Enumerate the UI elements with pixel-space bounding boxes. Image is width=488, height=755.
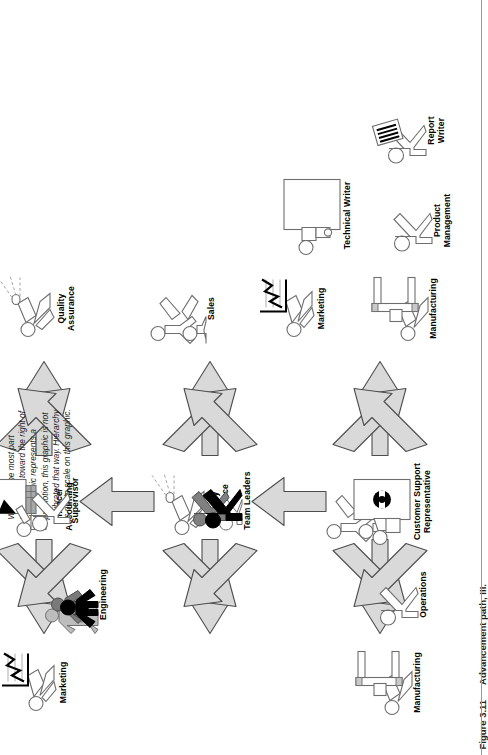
node-label: Report Writer [427, 116, 446, 144]
scanned-book-page: While for the most part movement toward … [0, 0, 488, 755]
node-label: Supervisor [71, 477, 81, 523]
node-customer-support: Customer Support Representative [352, 445, 432, 557]
arrow-three-way-right [322, 347, 438, 455]
node-operations: Operations [358, 551, 429, 637]
person-with-document-icon [366, 93, 426, 167]
person-icon [10, 463, 70, 537]
two-people-icon [146, 271, 206, 345]
node-quality-assurance-2: Quality Assurance [0, 265, 76, 351]
figure-title: Advancement path, III. [477, 584, 488, 685]
node-label: Team Leaders [243, 471, 253, 529]
group-of-people-icon [182, 463, 242, 537]
node-marketing-right: Marketing [256, 265, 327, 351]
person-icon [358, 557, 418, 631]
node-team-leaders: Team Leaders [182, 457, 253, 543]
node-supervisor: Supervisor [10, 457, 81, 543]
node-label: Engineering [99, 569, 109, 620]
arrow-three-way-left [152, 539, 268, 647]
node-label: Manufacturing [429, 278, 439, 339]
person-presenting-chart-icon [256, 271, 316, 345]
node-technical-writer: Technical Writer [282, 163, 353, 267]
group-of-people-icon [38, 557, 98, 631]
person-presenting-chart-icon [0, 645, 58, 719]
person-at-machine-icon [368, 271, 428, 345]
advancement-path-diagram: While for the most part movement toward … [0, 0, 488, 755]
arrow-up [250, 475, 328, 527]
page-edge-rule [481, 0, 482, 755]
figure-caption: Figure 3.11 Advancement path, III. [477, 0, 488, 755]
figure-number: Figure 3.11 [477, 699, 488, 749]
node-label: Sales [207, 297, 217, 320]
arrow-three-way-right [152, 347, 268, 455]
node-label: Marketing [317, 287, 327, 329]
person-icon [372, 183, 432, 257]
node-manufacturing-right: Manufacturing [368, 265, 439, 351]
node-report-writer: Report Writer [366, 87, 446, 173]
node-label: Technical Writer [343, 181, 353, 249]
node-label: Operations [419, 571, 429, 617]
node-sales-right: Sales [146, 265, 217, 351]
person-at-computer-desk-icon [282, 171, 342, 259]
node-label: Manufacturing [413, 652, 423, 713]
person-inspecting-icon [0, 271, 56, 345]
node-label: Customer Support Representative [413, 462, 432, 539]
person-at-machine-icon [352, 645, 412, 719]
node-marketing-top: Marketing [0, 639, 69, 725]
node-label: Marketing [59, 661, 69, 703]
node-product-management: Product Management [372, 177, 452, 263]
arrow-up [78, 475, 156, 527]
node-manufacturing-left: Manufacturing [352, 639, 423, 725]
person-with-headset-at-desk-icon [352, 453, 412, 549]
node-label: Product Management [433, 193, 452, 247]
node-engineering: Engineering [38, 551, 109, 637]
node-label: Quality Assurance [57, 286, 76, 331]
